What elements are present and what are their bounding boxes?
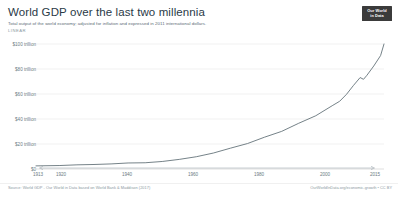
x-tick-label: 1960 <box>188 172 198 178</box>
chart-svg <box>36 44 384 169</box>
x-tick-label: 2000 <box>320 172 330 178</box>
y-tick-label: $60 trillion <box>15 92 36 97</box>
page-title: World GDP over the last two millennia <box>8 6 352 19</box>
y-tick-label: $100 trillion <box>13 42 37 47</box>
y-tick-label: $80 trillion <box>15 67 36 72</box>
chart-footer: Source: World GDP - Our World in Data ba… <box>0 185 398 195</box>
license-credit[interactable]: OurWorldInData.org/economic-growth • CC … <box>310 185 392 190</box>
scale-toggle-label[interactable]: LINEAR <box>8 28 352 34</box>
x-axis-labels: 1913 1920 1940 1960 1980 2000 2015 <box>0 172 398 180</box>
x-range-selector[interactable] <box>38 166 376 170</box>
y-axis-labels: $100 trillion $80 trillion $60 trillion … <box>6 44 36 169</box>
range-arrow-svg <box>38 166 376 170</box>
y-tick-label: $40 trillion <box>15 117 36 122</box>
x-tick-label: 1913 <box>33 172 43 178</box>
chart-subtitle: Total output of the world economy; adjus… <box>8 21 352 27</box>
logo-line-2: in Data <box>370 14 383 18</box>
plot-area <box>36 44 384 169</box>
chart-container: World GDP over the last two millennia To… <box>0 0 398 203</box>
footer-divider <box>0 183 398 184</box>
x-tick-label: 1980 <box>254 172 264 178</box>
y-tick-label: $20 trillion <box>15 142 36 147</box>
x-tick-label: 1920 <box>56 172 66 178</box>
x-tick-label: 2015 <box>370 172 380 178</box>
source-note: Source: World GDP - Our World in Data ba… <box>8 185 150 190</box>
our-world-in-data-logo[interactable]: Our World in Data <box>362 6 392 21</box>
chart-header: World GDP over the last two millennia To… <box>8 6 352 34</box>
data-line-world-gdp <box>36 44 384 166</box>
gridlines <box>36 44 384 169</box>
x-tick-label: 1940 <box>122 172 132 178</box>
